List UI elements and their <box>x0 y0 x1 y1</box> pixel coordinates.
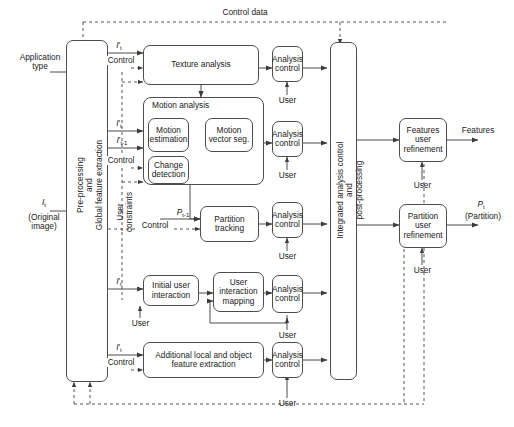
signal-control-texture: Control <box>104 56 138 65</box>
block-analysis-control-1[interactable]: Analysis control <box>272 46 303 82</box>
texture-analysis-label: Texture analysis <box>171 60 231 69</box>
signal-it-prime-features: I′t <box>110 343 128 352</box>
block-user-interaction-mapping[interactable]: User interaction mapping <box>213 272 264 312</box>
user-label-6: User <box>125 319 156 328</box>
preprocessing-column-label: Pre-processing and Global feature extrac… <box>76 40 104 330</box>
signal-it-prime-motion: I′t <box>110 119 128 128</box>
signal-user-constraints: Userconstraints <box>116 179 135 245</box>
user-label-4: User <box>272 331 303 340</box>
block-change-detection[interactable]: Change detection <box>148 156 189 184</box>
initial-user-interaction-label: Initial user interaction <box>152 281 190 300</box>
block-analysis-control-2[interactable]: Analysis control <box>272 121 303 157</box>
user-label-2: User <box>272 171 303 180</box>
block-additional-feature-extraction[interactable]: Additional local and object feature extr… <box>143 342 264 378</box>
block-motion-estimation[interactable]: Motion estimation <box>148 118 189 152</box>
user-label-1: User <box>272 96 303 105</box>
block-initial-user-interaction[interactable]: Initial user interaction <box>143 275 199 306</box>
input-application-type: Application type <box>12 53 68 72</box>
signal-it-prime-interaction: I′t <box>110 277 128 286</box>
partition-user-refinement-label: Partition user refinement <box>403 212 442 240</box>
block-partition-tracking[interactable]: Partition tracking <box>200 206 259 242</box>
block-texture-analysis[interactable]: Texture analysis <box>143 45 259 85</box>
control-data-label: Control data <box>205 8 285 17</box>
block-features-user-refinement[interactable]: Features user refinement <box>399 118 447 162</box>
signal-control-partition: Control <box>137 221 173 230</box>
analysis-control-3-label: Analysis control <box>272 211 303 230</box>
analysis-control-5-label: Analysis control <box>272 351 303 370</box>
signal-it-minus-1: I′t-1 <box>110 136 134 145</box>
block-analysis-control-4[interactable]: Analysis control <box>272 275 303 313</box>
signal-pt-minus-1: Pt-1 <box>170 208 196 217</box>
motion-vector-seg-label: Motion vector seg. <box>209 126 250 145</box>
analysis-control-2-label: Analysis control <box>272 130 303 149</box>
analysis-control-4-label: Analysis control <box>272 285 303 304</box>
output-features-label: Features <box>452 126 504 135</box>
block-partition-user-refinement[interactable]: Partition user refinement <box>399 204 447 248</box>
motion-analysis-label: Motion analysis <box>152 100 209 110</box>
user-label-5: User <box>272 399 303 408</box>
integrated-analysis-column-label: Integrated analysis control and post-pro… <box>336 45 364 335</box>
block-motion-vector-seg[interactable]: Motion vector seg. <box>205 118 253 152</box>
additional-feature-extraction-label: Additional local and object feature extr… <box>155 351 251 370</box>
signal-it-prime-texture: I′t <box>110 41 128 50</box>
features-user-refinement-label: Features user refinement <box>403 126 442 154</box>
block-analysis-control-3[interactable]: Analysis control <box>272 202 303 238</box>
user-label-8: User <box>407 266 438 275</box>
signal-control-features: Control <box>104 358 138 367</box>
change-detection-label: Change detection <box>152 161 186 180</box>
block-analysis-control-5[interactable]: Analysis control <box>272 342 303 378</box>
signal-control-motion: Control <box>104 156 138 165</box>
partition-tracking-label: Partition tracking <box>214 215 244 234</box>
output-partition-symbol: Pt <box>466 200 496 209</box>
user-label-7: User <box>407 181 438 190</box>
input-original-image-caption: (Original image) <box>14 213 74 232</box>
user-interaction-mapping-label: User interaction mapping <box>219 278 257 306</box>
user-label-3: User <box>272 252 303 261</box>
output-partition-caption: (Partition) <box>455 212 511 221</box>
block-diagram-canvas: Pre-processing and Global feature extrac… <box>0 0 514 427</box>
analysis-control-1-label: Analysis control <box>272 55 303 74</box>
motion-estimation-label: Motion estimation <box>150 126 188 145</box>
input-original-image-symbol: It <box>20 198 68 207</box>
